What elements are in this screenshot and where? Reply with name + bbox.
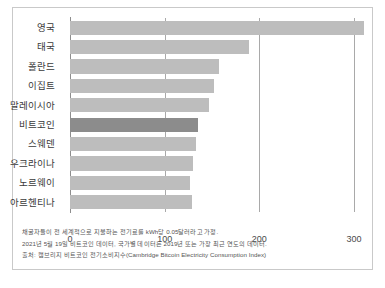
bar-row: 스웨덴	[70, 134, 373, 153]
bar-row: 노르웨이	[70, 173, 373, 192]
bar-row: 아르헨티나	[70, 193, 373, 212]
bar-row: 말레이시아	[70, 96, 373, 115]
footnote-line-2: 2021년 5월 19일 비트코인 데이터, 국가별 데이터는 2019년 또는…	[22, 238, 352, 250]
category-label: 이집트	[0, 76, 55, 95]
bar-row: 태국	[70, 37, 373, 56]
bar-row: 이집트	[70, 76, 373, 95]
bar	[70, 79, 214, 93]
category-label: 노르웨이	[0, 173, 55, 192]
bar	[70, 137, 196, 151]
bar	[70, 156, 193, 170]
bar	[70, 118, 198, 132]
bar	[70, 176, 190, 190]
bar	[70, 59, 219, 73]
category-label: 스웨덴	[0, 134, 55, 153]
bar-row: 비트코인	[70, 115, 373, 134]
footnote-line-3: 출처: 캠브리지 비트코인 전기소비지수(Cambridge Bitcoin E…	[22, 249, 352, 261]
bar	[70, 21, 364, 35]
category-label: 우크라이나	[0, 154, 55, 173]
footnote-block: 채굴자들이 전 세계적으로 지불하는 전기료를 kWh당 0.05달러라고 가정…	[22, 226, 352, 261]
bar-row: 영국	[70, 18, 373, 37]
bar-row: 우크라이나	[70, 154, 373, 173]
bar	[70, 98, 209, 112]
category-label: 영국	[0, 18, 55, 37]
bar	[70, 195, 192, 209]
plot-area: 0100200300영국태국폴란드이집트말레이시아비트코인스웨덴우크라이나노르웨…	[70, 18, 373, 212]
bar-row: 폴란드	[70, 57, 373, 76]
category-label: 비트코인	[0, 115, 55, 134]
bar	[70, 40, 249, 54]
footnote-line-1: 채굴자들이 전 세계적으로 지불하는 전기료를 kWh당 0.05달러라고 가정…	[22, 226, 352, 238]
category-label: 말레이시아	[0, 96, 55, 115]
chart-figure: 0100200300영국태국폴란드이집트말레이시아비트코인스웨덴우크라이나노르웨…	[0, 0, 385, 288]
category-label: 태국	[0, 37, 55, 56]
category-label: 폴란드	[0, 57, 55, 76]
category-label: 아르헨티나	[0, 193, 55, 212]
